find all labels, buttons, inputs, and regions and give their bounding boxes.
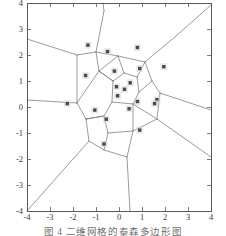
y-tick-label: 1: [19, 76, 23, 86]
x-tick-label: -3: [46, 212, 53, 222]
x-tick-label: -1: [92, 212, 99, 222]
x-tick-label: 4: [209, 212, 214, 222]
figure-caption: 图 4 二维网格的泰森多边形图: [0, 226, 226, 236]
y-tick-labels: 4 3 2 1 0 -1 -2 -3 -4: [16, 0, 24, 216]
y-tick-label: 2: [19, 50, 23, 60]
y-tick-label: 0: [19, 102, 23, 112]
x-tick-label: -4: [23, 212, 31, 222]
y-tick-label: 4: [19, 0, 24, 8]
voronoi-figure: -4 -3 -2 -1 0 1 2 3 4 4 3 2 1 0 -1 -2 -3…: [0, 0, 226, 236]
y-tick-label: -1: [16, 128, 23, 138]
y-tick-label: 3: [19, 24, 23, 34]
x-tick-label: 1: [140, 212, 144, 222]
x-tick-labels: -4 -3 -2 -1 0 1 2 3 4: [23, 212, 213, 222]
x-tick-label: 3: [186, 212, 190, 222]
x-tick-label: 2: [163, 212, 167, 222]
y-tick-label: -2: [16, 154, 23, 164]
y-tick-label: -4: [16, 206, 24, 216]
x-tick-label: -2: [69, 212, 76, 222]
y-tick-label: -3: [16, 180, 23, 190]
voronoi-plot: -4 -3 -2 -1 0 1 2 3 4 4 3 2 1 0 -1 -2 -3…: [0, 0, 226, 236]
x-tick-label: 0: [117, 212, 121, 222]
